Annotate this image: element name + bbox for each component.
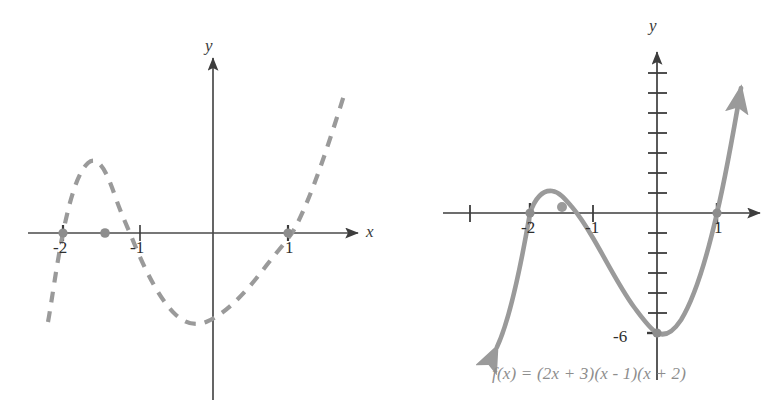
left-curve xyxy=(48,92,345,324)
right-root-point-pos1 xyxy=(712,208,721,217)
left-panel xyxy=(28,58,358,400)
right-panel xyxy=(443,52,760,380)
function-formula-caption: f(x) = (2x + 3)(x - 1)(x + 2) xyxy=(492,364,686,384)
left-x-axis-label: x xyxy=(366,222,374,242)
right-tick-label-neg2: -2 xyxy=(521,218,535,238)
right-y-axis-label: y xyxy=(649,16,657,36)
left-root-point-neg1point5 xyxy=(100,228,110,238)
left-root-point-neg2 xyxy=(58,228,67,237)
left-tick-label-neg2: -2 xyxy=(53,238,67,258)
right-root-point-neg2 xyxy=(525,208,534,217)
right-tick-label-neg1: -1 xyxy=(585,218,599,238)
left-root-point-pos1 xyxy=(283,228,292,237)
left-y-axis-label: y xyxy=(205,36,213,56)
two-panel-polynomial-figure xyxy=(0,0,769,407)
right-root-point-neg1point5 xyxy=(557,202,567,212)
right-tick-label-pos1: 1 xyxy=(714,218,723,238)
right-tick-label-neg6: -6 xyxy=(613,327,627,347)
right-minimum-point xyxy=(652,328,661,337)
left-tick-label-neg1: -1 xyxy=(130,238,144,258)
left-tick-label-pos1: 1 xyxy=(285,238,294,258)
